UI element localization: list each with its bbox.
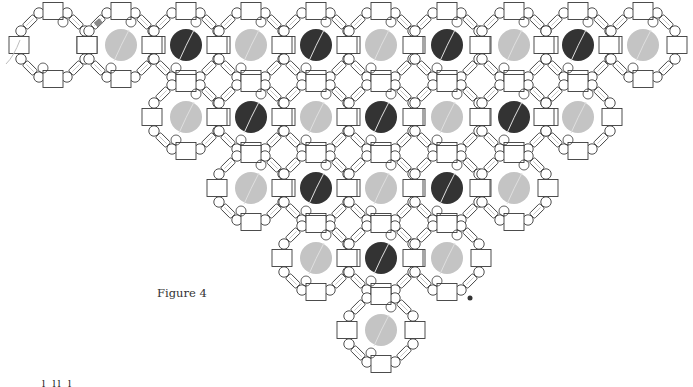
cube-bead-icon: [403, 109, 423, 126]
seed-bead-icon: [477, 54, 487, 64]
cube-bead-icon: [538, 180, 558, 197]
seed-bead-icon: [410, 169, 420, 179]
marker-bead-icon: [468, 296, 473, 301]
seed-bead-icon: [477, 26, 487, 36]
seed-bead-icon: [279, 54, 289, 64]
cube-bead-icon: [371, 216, 391, 233]
seed-bead-icon: [149, 54, 159, 64]
cube-bead-icon: [43, 71, 63, 88]
seed-bead-icon: [541, 26, 551, 36]
seed-bead-icon: [408, 339, 418, 349]
seed-bead-icon: [605, 98, 615, 108]
cube-bead-icon: [403, 250, 423, 267]
cube-bead-icon: [337, 250, 357, 267]
seed-bead-icon: [344, 98, 354, 108]
cube-bead-icon: [504, 146, 524, 163]
seed-bead-icon: [477, 98, 487, 108]
cube-bead-icon: [142, 109, 162, 126]
seed-bead-icon: [214, 98, 224, 108]
seed-bead-icon: [279, 26, 289, 36]
cube-bead-icon: [77, 37, 97, 54]
seed-bead-icon: [541, 54, 551, 64]
seed-bead-icon: [214, 126, 224, 136]
cube-bead-icon: [176, 143, 196, 160]
cube-bead-icon: [599, 37, 619, 54]
cube-bead-icon: [207, 37, 227, 54]
seed-bead-icon: [149, 26, 159, 36]
cube-bead-icon: [371, 3, 391, 20]
seed-bead-icon: [149, 98, 159, 108]
seed-bead-icon: [670, 26, 680, 36]
cube-bead-icon: [568, 75, 588, 92]
seed-bead-icon: [605, 126, 615, 136]
cube-bead-icon: [371, 146, 391, 163]
cube-bead-icon: [667, 37, 687, 54]
seed-bead-icon: [410, 239, 420, 249]
cube-bead-icon: [207, 109, 227, 126]
cube-bead-icon: [602, 109, 622, 126]
cube-bead-icon: [272, 250, 292, 267]
seed-bead-icon: [541, 169, 551, 179]
cube-bead-icon: [207, 180, 227, 197]
seed-bead-icon: [410, 267, 420, 277]
cube-bead-icon: [306, 75, 326, 92]
seed-bead-icon: [279, 239, 289, 249]
seed-bead-icon: [279, 98, 289, 108]
seed-bead-icon: [410, 54, 420, 64]
seed-bead-icon: [214, 26, 224, 36]
cube-bead-icon: [272, 180, 292, 197]
seed-bead-icon: [410, 98, 420, 108]
cube-bead-icon: [306, 146, 326, 163]
seed-bead-icon: [214, 197, 224, 207]
cube-bead-icon: [470, 180, 490, 197]
seed-bead-icon: [410, 197, 420, 207]
seed-bead-icon: [344, 169, 354, 179]
cube-bead-icon: [111, 71, 131, 88]
seed-bead-icon: [670, 54, 680, 64]
cube-bead-icon: [437, 284, 457, 301]
cube-bead-icon: [568, 143, 588, 160]
cube-bead-icon: [337, 37, 357, 54]
cube-bead-icon: [43, 3, 63, 20]
cube-bead-icon: [504, 75, 524, 92]
seed-bead-icon: [541, 126, 551, 136]
cube-bead-icon: [241, 75, 261, 92]
cube-bead-icon: [306, 3, 326, 20]
cube-bead-icon: [142, 37, 162, 54]
cube-bead-icon: [111, 3, 131, 20]
seed-bead-icon: [214, 54, 224, 64]
seed-bead-icon: [541, 98, 551, 108]
footer-text-fragment: l ll l: [42, 378, 73, 387]
figure-caption: Figure 4: [157, 286, 207, 300]
seed-bead-icon: [16, 54, 26, 64]
seed-bead-icon: [344, 311, 354, 321]
seed-bead-icon: [408, 311, 418, 321]
seed-bead-icon: [344, 267, 354, 277]
cube-bead-icon: [437, 216, 457, 233]
seed-bead-icon: [84, 26, 94, 36]
seed-bead-icon: [16, 26, 26, 36]
seed-bead-icon: [214, 169, 224, 179]
seed-bead-icon: [344, 26, 354, 36]
cube-bead-icon: [534, 109, 554, 126]
cube-bead-icon: [633, 71, 653, 88]
seed-bead-icon: [344, 339, 354, 349]
cube-bead-icon: [9, 37, 29, 54]
cube-bead-icon: [306, 216, 326, 233]
cube-bead-icon: [272, 37, 292, 54]
cube-bead-icon: [337, 109, 357, 126]
cube-bead-icon: [337, 180, 357, 197]
seed-bead-icon: [474, 239, 484, 249]
seed-bead-icon: [477, 197, 487, 207]
cube-bead-icon: [437, 146, 457, 163]
cube-bead-icon: [241, 214, 261, 231]
seed-bead-icon: [279, 169, 289, 179]
cube-bead-icon: [241, 146, 261, 163]
cube-bead-icon: [272, 109, 292, 126]
seed-bead-icon: [474, 267, 484, 277]
cube-bead-icon: [371, 75, 391, 92]
cube-bead-icon: [534, 37, 554, 54]
seed-bead-icon: [410, 26, 420, 36]
seed-bead-icon: [606, 54, 616, 64]
cube-bead-icon: [504, 3, 524, 20]
